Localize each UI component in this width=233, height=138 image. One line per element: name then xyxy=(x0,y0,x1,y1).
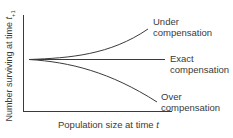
label-exact-line1: Exact xyxy=(170,53,229,64)
y-axis-label-var: t xyxy=(4,17,14,20)
x-axis-label-text: Population size at time xyxy=(58,119,156,130)
x-axis-label-var: t xyxy=(156,119,159,130)
label-exact-line2: compensation xyxy=(170,64,229,75)
label-over-line2: compensation xyxy=(161,102,220,113)
y-axis-label-sub: +1 xyxy=(10,10,16,17)
label-under-compensation: Under compensation xyxy=(153,16,212,38)
label-over-compensation: Over compensation xyxy=(161,91,220,113)
y-axis-label: Number surviving at time t+1 xyxy=(4,10,16,122)
over-compensation-curve xyxy=(29,60,157,103)
under-compensation-curve xyxy=(29,29,148,60)
label-under-line1: Under xyxy=(153,16,212,27)
label-exact-compensation: Exact compensation xyxy=(170,53,229,75)
label-over-line1: Over xyxy=(161,91,220,102)
x-axis-label: Population size at time t xyxy=(58,119,159,130)
label-under-line2: compensation xyxy=(153,27,212,38)
y-axis-label-text: Number surviving at time xyxy=(4,20,14,122)
